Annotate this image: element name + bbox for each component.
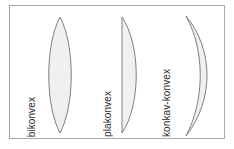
lens-label-konkav-konvex: konkav-konvex <box>162 69 172 137</box>
lens-label-plakonvex: plakonvex <box>103 91 113 137</box>
lens-shapes-figure: bikonvex plakonvex konkav-konvex <box>0 0 234 149</box>
lens-outline-bikonvex <box>49 17 72 133</box>
lens-shape-konkav-konvex <box>186 16 207 136</box>
lens-outline-konkav-konvex <box>186 16 207 136</box>
lens-outline-plakonvex <box>122 17 136 133</box>
lens-label-bikonvex: bikonvex <box>27 97 37 137</box>
lens-shape-bikonvex <box>49 17 72 133</box>
lens-shape-plakonvex <box>122 17 136 133</box>
